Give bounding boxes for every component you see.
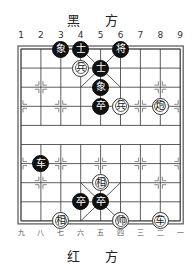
black-piece[interactable]: 将 (112, 41, 129, 58)
column-label: 六 (75, 227, 87, 237)
piece-char: 车 (36, 159, 46, 169)
piece-char: 车 (155, 216, 165, 226)
piece-char: 兵 (76, 63, 86, 73)
black-piece[interactable]: 士 (92, 60, 109, 77)
red-piece[interactable]: 兵 (112, 98, 129, 115)
column-label: 四 (115, 227, 127, 237)
piece-char: 士 (96, 63, 106, 73)
red-piece[interactable]: 炮 (152, 98, 169, 115)
black-piece[interactable]: 士 (72, 41, 89, 58)
column-label: 三 (134, 227, 146, 237)
black-piece[interactable]: 象 (52, 41, 69, 58)
black-piece[interactable]: 象 (92, 79, 109, 96)
black-piece[interactable]: 卒 (92, 98, 109, 115)
column-label: 一 (174, 227, 186, 237)
piece-char: 士 (76, 44, 86, 54)
column-label: 二 (154, 227, 166, 237)
piece-char: 帅 (116, 216, 126, 226)
piece-char: 炮 (155, 101, 165, 111)
piece-char: 相 (96, 178, 106, 188)
piece-char: 象 (96, 82, 106, 92)
piece-char: 卒 (96, 197, 106, 207)
column-label: 八 (35, 227, 47, 237)
piece-char: 兵 (116, 101, 126, 111)
red-piece[interactable]: 兵 (72, 60, 89, 77)
column-label: 七 (55, 227, 67, 237)
piece-char: 将 (116, 44, 126, 54)
column-label: 五 (95, 227, 107, 237)
piece-char: 象 (56, 44, 66, 54)
piece-char: 相 (56, 216, 66, 226)
column-label: 九 (15, 227, 27, 237)
piece-char: 卒 (96, 101, 106, 111)
red-side-label: 红 方 (0, 246, 195, 265)
piece-char: 卒 (76, 197, 86, 207)
